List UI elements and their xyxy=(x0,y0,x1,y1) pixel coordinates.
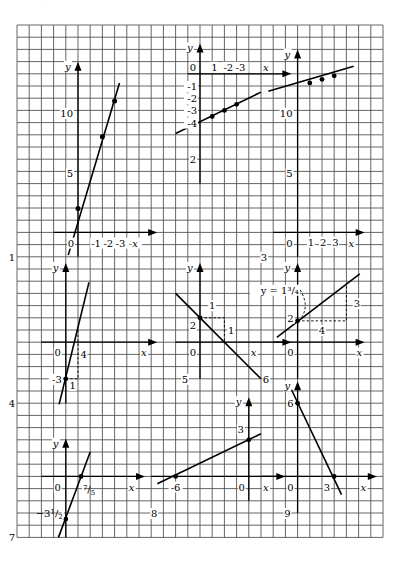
graph-line xyxy=(268,66,353,91)
x-intercept-label: 7/5 xyxy=(83,484,95,497)
panel-number-4: 4 xyxy=(9,398,15,409)
drop-label: 1 xyxy=(228,325,234,336)
data-point xyxy=(112,98,117,103)
x-tick-neg6: -6 xyxy=(171,482,181,493)
panel-7: y07/5−31/2x7 xyxy=(8,438,145,544)
panel-2: y01-2-3x-1-2-3-42 xyxy=(176,42,292,183)
x-axis-label: -x xyxy=(129,238,138,249)
x-axis-label: x xyxy=(251,347,257,358)
y-axis-arrow-icon xyxy=(294,263,301,272)
x-tick-3: 3 xyxy=(332,237,338,248)
y-tick--1: -1 xyxy=(187,81,197,92)
x-axis-arrow-icon xyxy=(282,70,291,77)
run-label: 4 xyxy=(319,325,325,336)
y-axis-arrow-icon xyxy=(294,50,301,59)
x-axis-arrow-icon xyxy=(148,229,157,236)
x-axis-arrow-icon xyxy=(356,229,365,236)
rise-label: 4 xyxy=(80,349,86,360)
origin-label: 0 xyxy=(190,347,196,358)
x-tick-3: -3 xyxy=(236,62,246,73)
y-axis-label: y xyxy=(186,262,193,273)
slope-annotation: y = 1³/₄ xyxy=(260,285,299,296)
x-axis-label: x xyxy=(357,347,363,358)
x-axis-label: x xyxy=(348,238,354,249)
y-axis-label: y xyxy=(52,262,59,273)
x-axis-arrow-icon xyxy=(136,473,145,480)
graph-line xyxy=(58,452,90,537)
panel-number-3: 3 xyxy=(261,252,267,263)
origin-label: 0 xyxy=(286,238,292,249)
y-tick-10: 10 xyxy=(60,108,73,119)
x-axis-label: x xyxy=(263,62,269,73)
y-intercept-label: 2 xyxy=(190,320,196,331)
x-tick-1: 1 xyxy=(211,62,217,73)
y-axis-arrow-icon xyxy=(75,62,82,71)
panel-number-9: 9 xyxy=(284,508,290,519)
data-point xyxy=(295,401,300,406)
y-tick-6: 6 xyxy=(287,398,293,409)
panel-number-5: 5 xyxy=(182,374,188,385)
x-axis-arrow-icon xyxy=(368,473,377,480)
x-tick-2: -2 xyxy=(223,62,233,73)
y-tick--3: -3 xyxy=(187,105,197,116)
x-tick-1: 1 xyxy=(308,237,314,248)
y-axis-label: y xyxy=(284,262,291,273)
y-tick-3: 3 xyxy=(237,424,243,435)
y-axis-arrow-icon xyxy=(197,43,204,52)
x-tick-3: -3 xyxy=(116,238,126,249)
data-point xyxy=(76,206,81,211)
y-axis-label: y xyxy=(64,61,71,72)
panel-number-6: 6 xyxy=(263,374,269,385)
x-tick-3: 3 xyxy=(324,482,330,493)
panel-number-2: 2 xyxy=(190,154,196,165)
origin-label: 0 xyxy=(238,482,244,493)
x-axis-label: x xyxy=(141,347,147,358)
y-tick-5: 5 xyxy=(67,168,73,179)
panel-number-7: 7 xyxy=(9,532,15,543)
y-intercept-label: -3 xyxy=(52,374,62,385)
y-tick--2: -2 xyxy=(187,93,197,104)
panel-number-1: 1 xyxy=(9,252,15,263)
graph-paper-figure: y1050-1-2-3-x1y01-2-3x-1-2-3-42y1050123x… xyxy=(0,0,405,561)
data-point xyxy=(332,474,337,479)
x-tick-2: 2 xyxy=(320,237,326,248)
y-axis-label: y xyxy=(52,438,59,449)
y-intercept-label: 2 xyxy=(287,313,293,324)
data-point xyxy=(246,437,251,442)
y-axis-label: y xyxy=(284,49,291,60)
data-point xyxy=(173,474,178,479)
y-axis-arrow-icon xyxy=(245,397,252,406)
annotation-arc xyxy=(300,290,305,318)
y-axis-label: y xyxy=(186,42,193,53)
panel-4: y041-3x4 xyxy=(8,262,157,409)
data-point xyxy=(332,73,337,78)
run-label: 1 xyxy=(69,380,75,391)
x-tick-2: -2 xyxy=(103,238,113,249)
data-point xyxy=(79,474,84,479)
x-axis-arrow-icon xyxy=(356,339,365,346)
data-point xyxy=(210,114,215,119)
data-point xyxy=(222,108,227,113)
panels: y1050-1-2-3-x1y01-2-3x-1-2-3-42y1050123x… xyxy=(8,42,377,543)
origin-label: 0 xyxy=(287,347,293,358)
data-point xyxy=(320,77,325,82)
y-tick-5: 5 xyxy=(286,168,292,179)
y-tick--4: -4 xyxy=(187,118,197,129)
data-point xyxy=(100,134,105,139)
y-intercept-label: −31/2 xyxy=(36,508,63,521)
run-label: 1 xyxy=(209,300,215,311)
graph-line xyxy=(176,293,261,378)
y-tick-10: 10 xyxy=(280,108,293,119)
data-point xyxy=(63,517,68,522)
origin-label: 0 xyxy=(68,238,74,249)
x-axis-arrow-icon xyxy=(148,339,157,346)
x-axis-label: x xyxy=(361,482,367,493)
y-axis-label: y xyxy=(284,380,291,391)
origin-label: 0 xyxy=(287,482,293,493)
y-axis-arrow-icon xyxy=(197,263,204,272)
y-axis-label: y xyxy=(235,396,242,407)
origin-label: 0 xyxy=(190,62,196,73)
y-axis-arrow-icon xyxy=(62,263,69,272)
data-point xyxy=(307,81,312,86)
rise-label: 3 xyxy=(354,298,360,309)
